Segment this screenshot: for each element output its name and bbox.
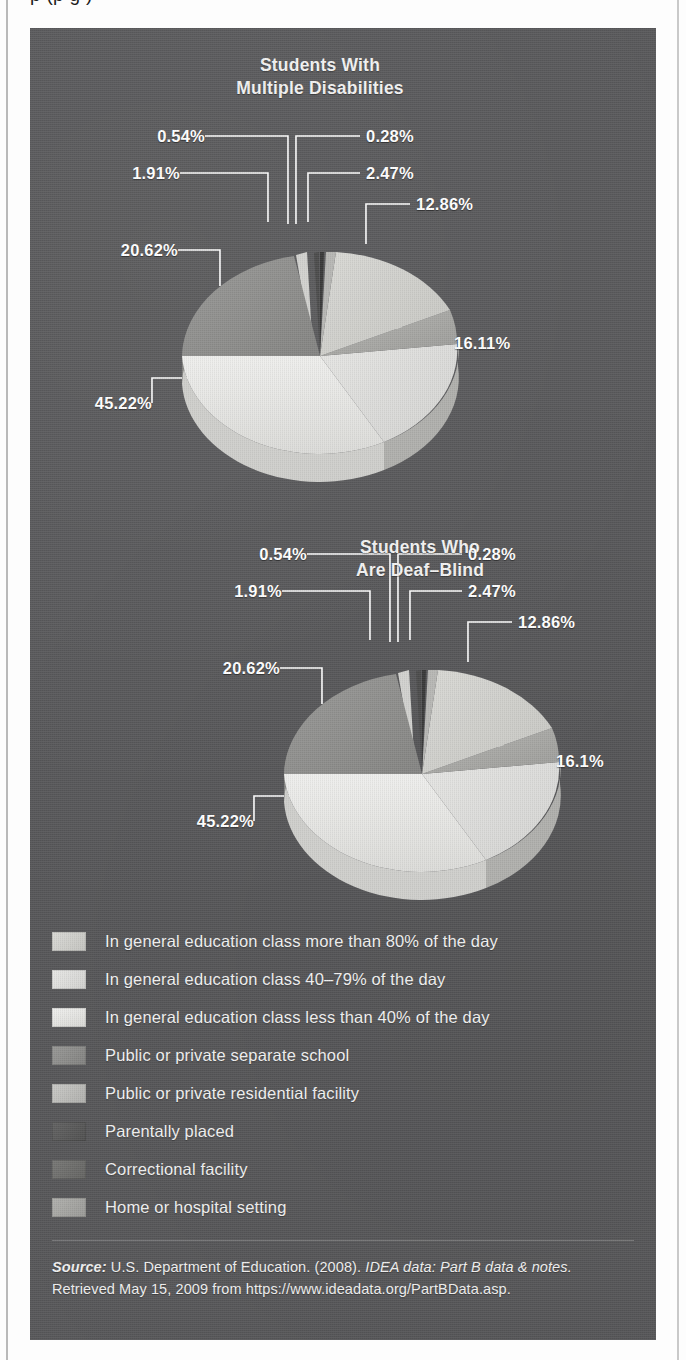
figure-panel: Students With Multiple Disabilities [30, 28, 656, 1340]
legend-item-general-ed-80: In general education class more than 80%… [52, 922, 632, 960]
legend-swatch-general-ed-40-79-icon [52, 970, 86, 989]
chart-2-label-2-47: 2.47% [468, 582, 516, 601]
chart-1-label-2-47: 2.47% [366, 164, 414, 183]
legend-label-general-ed-80: In general education class more than 80%… [105, 932, 498, 951]
legend-label-parentally-placed: Parentally placed [105, 1122, 234, 1141]
legend-label-separate-school: Public or private separate school [105, 1046, 349, 1065]
pie-chart-multiple-disabilities [150, 188, 490, 518]
legend-swatch-correctional-facility-icon [52, 1160, 86, 1179]
chart-1-title-line1: Students With [150, 54, 490, 77]
chart-1-label-0-54: 0.54% [90, 127, 205, 146]
legend-item-general-ed-40-79: In general education class 40–79% of the… [52, 960, 632, 998]
legend-swatch-residential-facility-icon [52, 1084, 86, 1103]
source-line-2: Retrieved May 15, 2009 from https://www.… [52, 1278, 642, 1300]
chart-2-label-45-22: 45.22% [146, 812, 254, 831]
page-left-rule [6, 0, 8, 1360]
page-right-rule [677, 0, 679, 1360]
legend-label-correctional-facility: Correctional facility [105, 1160, 248, 1179]
chart-1-title-line2: Multiple Disabilities [150, 77, 490, 100]
chart-2-label-0-28: 0.28% [468, 545, 516, 564]
legend-label-residential-facility: Public or private residential facility [105, 1084, 359, 1103]
legend-item-parentally-placed: Parentally placed [52, 1112, 632, 1150]
source-divider [52, 1240, 634, 1241]
chart-2-label-20-62: 20.62% [162, 659, 280, 678]
legend-swatch-separate-school-icon [52, 1046, 86, 1065]
clipped-caption-above: p (p g ) [30, 0, 650, 6]
legend-swatch-parentally-placed-icon [52, 1122, 86, 1141]
pie-chart-deaf-blind [252, 606, 592, 936]
source-line-1: Source: U.S. Department of Education. (2… [52, 1256, 642, 1278]
pie-1-svg [150, 188, 490, 518]
legend-label-general-ed-40-79: In general education class 40–79% of the… [105, 970, 446, 989]
legend-item-residential-facility: Public or private residential facility [52, 1074, 632, 1112]
legend-item-separate-school: Public or private separate school [52, 1036, 632, 1074]
chart-1-label-45-22: 45.22% [44, 394, 152, 413]
chart-1-label-16-11: 16.11% [454, 334, 510, 353]
pie-2-svg [252, 606, 592, 936]
legend-item-correctional-facility: Correctional facility [52, 1150, 632, 1188]
chart-1-label-1-91: 1.91% [65, 164, 180, 183]
legend-label-home-hospital: Home or hospital setting [105, 1198, 287, 1217]
chart-2-label-1-91: 1.91% [167, 582, 282, 601]
source-text-1: U.S. Department of Education. (2008). [107, 1259, 366, 1275]
chart-1-label-20-62: 20.62% [60, 241, 178, 260]
source-italic-title: IDEA data: Part B data & notes. [365, 1259, 571, 1275]
chart-1-label-0-28: 0.28% [366, 127, 414, 146]
legend-swatch-home-hospital-icon [52, 1198, 86, 1217]
legend-swatch-general-ed-80-icon [52, 932, 86, 951]
chart-2-label-0-54: 0.54% [192, 545, 307, 564]
chart-2-label-12-86: 12.86% [518, 613, 575, 632]
legend-item-home-hospital: Home or hospital setting [52, 1188, 632, 1226]
chart-1-title: Students With Multiple Disabilities [150, 54, 490, 100]
chart-1-label-12-86: 12.86% [416, 195, 473, 214]
legend-label-general-ed-less-40: In general education class less than 40%… [105, 1008, 490, 1027]
figure-page: p (p g ) [0, 0, 686, 1360]
legend-swatch-general-ed-less-40-icon [52, 1008, 86, 1027]
legend-item-general-ed-less-40: In general education class less than 40%… [52, 998, 632, 1036]
chart-legend: In general education class more than 80%… [52, 922, 632, 1226]
chart-2-label-16-1: 16.1% [556, 752, 604, 771]
source-note: Source: U.S. Department of Education. (2… [52, 1256, 642, 1300]
source-lead: Source: [52, 1259, 107, 1275]
